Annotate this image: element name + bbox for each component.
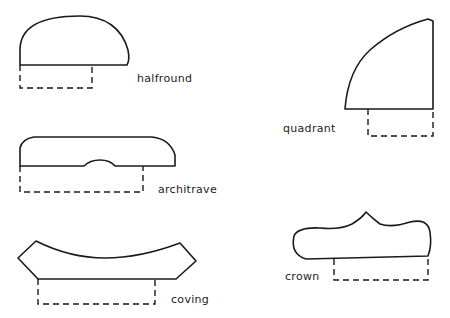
architrave-profile (20, 137, 175, 192)
halfround-profile (20, 16, 129, 88)
label-halfround: halfround (137, 72, 192, 85)
label-quadrant: quadrant (283, 122, 336, 135)
label-architrave: architrave (158, 183, 217, 196)
label-coving: coving (171, 293, 209, 306)
coving-profile (18, 241, 196, 304)
quadrant-profile (345, 19, 433, 136)
label-crown: crown (285, 270, 320, 283)
moldings-diagram (0, 0, 450, 318)
